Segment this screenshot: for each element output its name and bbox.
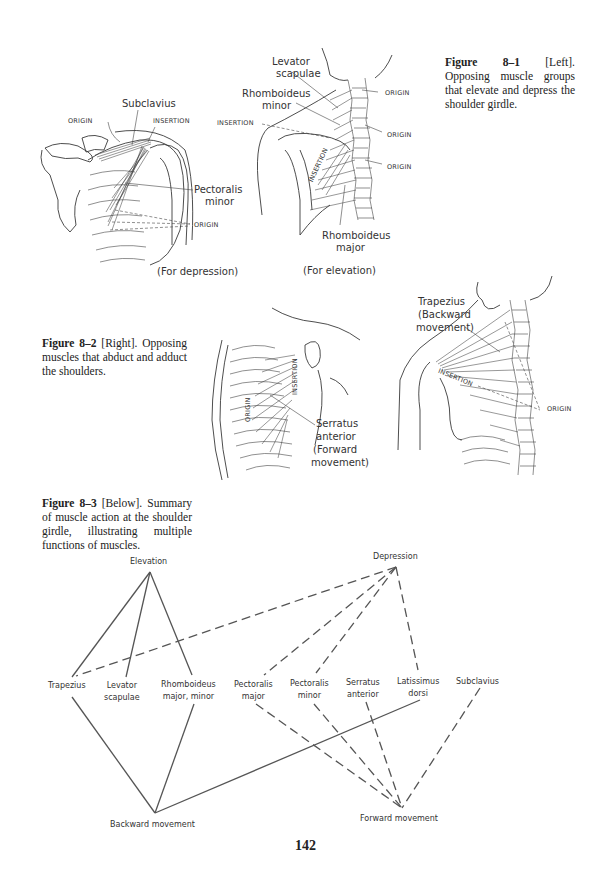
node-rhomboideus: Rhomboideus major, minor — [161, 679, 216, 703]
node-depression: Depression — [373, 551, 418, 563]
node-latissimus-dorsi: Latissimus dorsi — [397, 676, 439, 700]
diagram-connection-lines — [0, 0, 609, 890]
node-forward-movement: Forward movement — [360, 813, 438, 825]
page-number: 142 — [295, 838, 316, 854]
node-levator-scapulae: Levator scapulae — [104, 680, 140, 704]
node-pectoralis-minor: Pectoralis minor — [290, 678, 329, 702]
node-pectoralis-major: Pectoralis major — [234, 679, 273, 703]
node-backward-movement: Backward movement — [110, 819, 195, 831]
node-serratus-anterior: Serratus anterior — [346, 677, 380, 701]
node-elevation: Elevation — [130, 556, 167, 568]
node-subclavius: Subclavius — [456, 676, 499, 688]
node-trapezius: Trapezius — [48, 680, 86, 692]
